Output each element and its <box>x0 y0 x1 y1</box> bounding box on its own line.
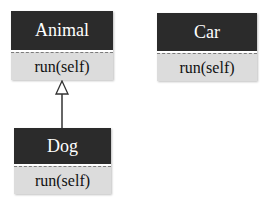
class-name: Animal <box>11 11 113 52</box>
class-method: run(self) <box>11 52 113 80</box>
class-method: run(self) <box>14 166 111 194</box>
class-method: run(self) <box>157 53 257 81</box>
inheritance-arrowhead-icon <box>56 81 68 94</box>
class-box-car[interactable]: Car run(self) <box>157 13 257 81</box>
class-box-dog[interactable]: Dog run(self) <box>14 128 111 194</box>
class-name: Car <box>157 13 257 53</box>
class-box-animal[interactable]: Animal run(self) <box>11 11 113 80</box>
class-name: Dog <box>14 128 111 166</box>
